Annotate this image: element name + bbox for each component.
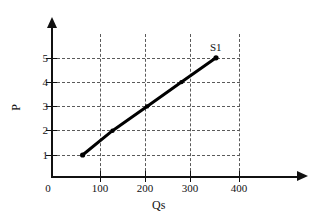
series-plot-area bbox=[0, 0, 313, 219]
data-point bbox=[80, 152, 85, 157]
supply-curve-line-s1 bbox=[83, 58, 216, 155]
series-label-s1: S1 bbox=[210, 41, 222, 53]
data-point bbox=[145, 104, 149, 108]
data-point bbox=[179, 80, 183, 84]
data-point bbox=[110, 129, 114, 133]
data-point bbox=[213, 55, 218, 60]
supply-curve-chart: 0 100 200 300 400 1 2 3 4 5 P Qs S1 bbox=[0, 0, 313, 219]
